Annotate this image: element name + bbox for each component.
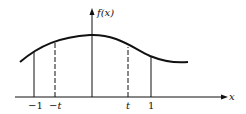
x-axis-label: x xyxy=(229,91,235,102)
x-axis-arrow-icon xyxy=(221,95,228,100)
y-axis-arrow-icon xyxy=(90,8,95,15)
y-axis-label: f(x) xyxy=(96,7,114,18)
tick-label-minus-1: −1 xyxy=(28,100,43,111)
function-curve xyxy=(20,35,188,62)
tick-label-t: t xyxy=(126,100,131,111)
function-plot: x f(x) −1 −t t 1 xyxy=(0,0,246,114)
tick-label-minus-t: −t xyxy=(49,100,62,111)
tick-label-1: 1 xyxy=(148,100,154,111)
